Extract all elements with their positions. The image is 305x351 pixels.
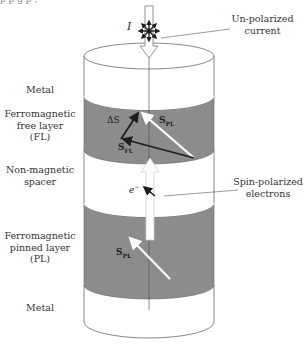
label-line: Ferromagnetic <box>2 108 78 120</box>
label-line: pinned layer <box>2 242 78 254</box>
unpolarized-leader-line <box>161 29 230 38</box>
label-line: (FL) <box>2 131 78 143</box>
label-line: spacer <box>2 176 78 188</box>
s-fl-label: SFL <box>118 142 133 154</box>
callout-line-2: electrons <box>231 188 305 200</box>
s-pl-pinned-label: SPL <box>116 247 131 259</box>
current-symbol: I <box>127 20 131 33</box>
callout-line-1: Un-polarized <box>225 13 300 25</box>
electron-label: e− <box>129 183 139 195</box>
label-line: free layer <box>2 120 78 132</box>
label-free-layer: Ferromagnetic free layer (FL) <box>2 108 78 143</box>
callout-line-2: current <box>225 25 300 37</box>
label-line: Ferromagnetic <box>2 230 78 242</box>
label-spacer: Non-magnetic spacer <box>2 164 78 187</box>
delta-s-label: ΔS <box>107 115 120 125</box>
label-line: Metal <box>2 84 78 96</box>
label-line: Metal <box>2 302 78 314</box>
unpolarized-current-callout: Un-polarized current <box>225 13 300 36</box>
label-metal-top: Metal <box>2 84 78 96</box>
unpolarized-spin-star-icon <box>139 21 159 41</box>
label-line: Non-magnetic <box>2 164 78 176</box>
label-pinned-layer: Ferromagnetic pinned layer (PL) <box>2 230 78 265</box>
spin-polarized-callout: Spin-polarized electrons <box>231 176 305 199</box>
label-metal-bottom: Metal <box>2 302 78 314</box>
label-line: (PL) <box>2 253 78 265</box>
s-pl-free-label: SPL <box>159 115 174 127</box>
callout-line-1: Spin-polarized <box>231 176 305 188</box>
